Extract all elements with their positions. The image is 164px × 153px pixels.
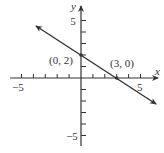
point-0-2 <box>79 53 83 57</box>
y-tick-label-neg5: −5 <box>66 130 78 142</box>
x-tick-label-5: 5 <box>137 81 143 93</box>
x-tick-label-neg5: −5 <box>12 81 24 93</box>
annotation-3-0: (3, 0) <box>110 57 134 70</box>
data-line-lower <box>116 78 156 104</box>
y-tick-label-5: 5 <box>70 15 76 27</box>
data-line <box>36 26 116 78</box>
annotation-0-2: (0, 2) <box>49 54 73 67</box>
x-axis-label: x <box>154 65 160 77</box>
coordinate-plane: −5 5 5 −5 x y (0, 2) (3, 0) <box>0 0 164 153</box>
y-axis-label: y <box>70 0 76 12</box>
point-3-0 <box>115 76 119 80</box>
